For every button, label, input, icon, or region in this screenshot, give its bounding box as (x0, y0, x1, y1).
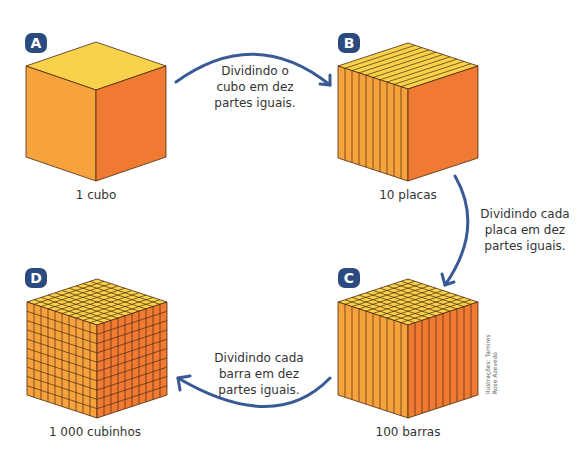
note-line: barra em dez (204, 366, 314, 382)
note-c-to-d: Dividindo cada barra em dez partes iguai… (204, 350, 314, 398)
credit-line-2: Rose Azevedo (491, 334, 498, 394)
base-ten-cube-diagram: A B C D 1 cubo 10 placas 100 barras 1 00… (0, 0, 582, 460)
note-line: Dividindo o (205, 63, 305, 79)
cube-c (338, 279, 478, 418)
note-b-to-c: Dividindo cada placa em dez partes iguai… (470, 206, 580, 254)
badge-d: D (25, 268, 47, 288)
caption-a: 1 cubo (56, 188, 136, 202)
caption-b: 10 placas (368, 188, 448, 202)
note-line: partes iguais. (204, 382, 314, 398)
note-line: Dividindo cada (470, 206, 580, 222)
badge-b: B (338, 33, 360, 53)
note-line: cubo em dez (205, 79, 305, 95)
caption-c: 100 barras (368, 425, 448, 439)
cube-d (27, 279, 167, 418)
credit-line-1: Ilustrações: Tamires (484, 334, 491, 394)
cube-a (26, 42, 166, 181)
illustration-credit: Ilustrações: Tamires Rose Azevedo (484, 334, 498, 394)
cube-b (338, 43, 478, 181)
note-a-to-b: Dividindo o cubo em dez partes iguais. (205, 63, 305, 111)
caption-d: 1 000 cubinhos (40, 425, 150, 439)
note-line: partes iguais. (470, 238, 580, 254)
note-line: Dividindo cada (204, 350, 314, 366)
badge-c: C (338, 268, 360, 288)
note-line: placa em dez (470, 222, 580, 238)
badge-a: A (25, 33, 47, 53)
note-line: partes iguais. (205, 95, 305, 111)
